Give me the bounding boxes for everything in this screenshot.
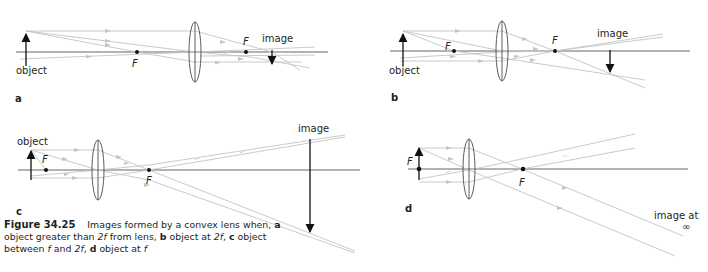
focal-label-left: F <box>132 58 138 69</box>
panel-d: F F image at ∞ d <box>405 134 698 256</box>
image-label: image <box>262 33 293 44</box>
object-label: object <box>16 65 47 76</box>
panel-label-a: a <box>15 93 22 104</box>
focal-label-right: F <box>519 177 525 188</box>
infinity-symbol: ∞ <box>682 221 690 232</box>
image-label: image <box>298 123 329 134</box>
panel-label-c: c <box>16 206 22 217</box>
panel-label-d: d <box>405 203 412 214</box>
panel-a: object F F image a <box>15 22 328 104</box>
figure-caption: Figure 34.25 Images formed by a convex l… <box>4 219 304 255</box>
focal-point-left <box>452 49 456 53</box>
figure-number: Figure 34.25 <box>4 219 75 230</box>
panel-label-b: b <box>391 92 398 103</box>
focal-label-left: F <box>445 41 451 52</box>
focal-label-left: F <box>42 154 48 165</box>
focal-point-left <box>44 168 48 172</box>
focal-point-left <box>135 50 139 54</box>
object-label: object <box>389 65 420 76</box>
object-focal-label: F <box>407 156 413 167</box>
focal-label-right: F <box>243 36 249 47</box>
image-label: image <box>597 28 628 39</box>
focal-point-right <box>147 168 151 172</box>
image-label: image at <box>654 210 698 221</box>
panel-b: object F F image b <box>389 21 690 103</box>
focal-point-right <box>244 50 248 54</box>
object-label: object <box>17 136 48 147</box>
focal-point-right <box>521 167 526 172</box>
focal-point-right <box>553 49 557 53</box>
focal-label-right: F <box>552 35 558 46</box>
focal-point-left <box>417 167 422 172</box>
focal-label-right: F <box>146 175 152 186</box>
